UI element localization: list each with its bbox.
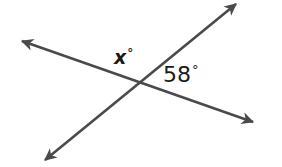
angle-label-58-value: 58 [163,62,191,87]
angle-label-x-value: x [114,46,126,68]
degree-symbol-icon: ° [192,62,199,77]
line-lower-left-to-upper-right [45,4,236,160]
angle-label-58: 58° [163,63,199,86]
angle-diagram: x° 58° [0,0,282,167]
diagram-canvas [0,0,282,167]
line-upper-left-to-lower-right [22,41,253,122]
degree-symbol-icon: ° [127,46,133,60]
angle-label-x: x° [114,47,133,67]
